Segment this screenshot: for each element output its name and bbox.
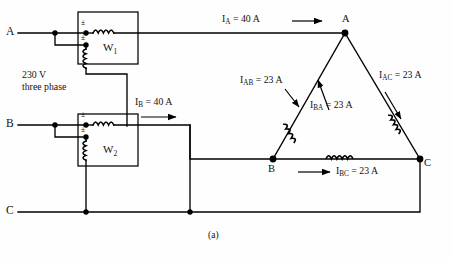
dot-b-tap <box>52 122 57 127</box>
dot-c-branch <box>187 209 192 214</box>
w2-box <box>78 114 138 166</box>
delta-coils <box>283 114 401 159</box>
source-label-line2: three phase <box>22 82 66 93</box>
current-label-iab: IAB = 23 A <box>240 75 283 86</box>
current-label-ib: IB = 40 A <box>135 97 172 108</box>
wire-w1-vc-to-b <box>86 68 127 126</box>
w1-voltage-polarity-mark: ± <box>81 35 85 41</box>
w2-current-polarity-mark: ± <box>81 112 85 118</box>
dot-vertex-a <box>342 30 349 37</box>
supply-terminal-c: C <box>6 204 14 217</box>
current-label-iac: IAC = 23 A <box>379 70 422 81</box>
figure-caption: (a) <box>208 230 219 241</box>
dot-vertex-b <box>270 156 277 163</box>
source-label-line1: 230 V <box>22 70 46 81</box>
junction-dots <box>52 30 423 215</box>
coil-ab <box>283 123 297 143</box>
w2-voltage-coil <box>83 141 86 160</box>
w1-current-coil <box>93 30 114 33</box>
dot-vertex-c <box>417 156 424 163</box>
delta-vertex-a-label: A <box>342 13 350 25</box>
supply-terminal-a: A <box>6 25 14 38</box>
current-arrows <box>141 21 401 172</box>
circuit-svg <box>0 0 452 258</box>
current-label-ia: IA = 40 A <box>222 14 260 25</box>
wattmeter-w1-label: W1 <box>103 41 117 53</box>
delta-vertex-c-label: C <box>424 157 431 169</box>
delta-side-ac <box>345 33 420 159</box>
dot-w2-v-term <box>83 134 88 139</box>
w2-voltage-polarity-mark: ± <box>81 127 85 133</box>
w1-voltage-coil <box>83 49 86 68</box>
current-label-iba: IBA = 23 A <box>310 100 353 111</box>
supply-terminal-b: B <box>6 117 14 130</box>
dot-w1-v-term <box>83 42 88 47</box>
wattmeter-w2-label: W2 <box>103 143 117 155</box>
arrow-iab <box>285 89 299 107</box>
dot-a-tap <box>52 30 57 35</box>
figure-canvas: A B C 230 V three phase W1 W2 ± ± ± ± A … <box>0 0 452 258</box>
dot-c-w2 <box>83 209 88 214</box>
delta-vertex-b-label: B <box>268 163 275 175</box>
w1-box <box>78 12 138 64</box>
w1-current-polarity-mark: ± <box>81 20 85 26</box>
delta-side-ab <box>273 33 345 159</box>
current-label-ibc: IBC = 23 A <box>336 166 378 177</box>
w2-current-coil <box>93 122 114 125</box>
